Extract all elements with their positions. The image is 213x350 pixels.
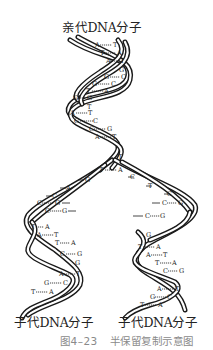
figure-caption: 图4–23半保留复制示意图 (60, 333, 194, 348)
svg-text:T: T (31, 288, 36, 296)
svg-text:C: C (167, 190, 172, 198)
svg-text:G: G (55, 199, 60, 207)
svg-text:C: C (63, 279, 68, 287)
svg-text:G: G (73, 94, 78, 102)
svg-text:T: T (76, 270, 81, 278)
svg-text:T: T (120, 57, 125, 65)
svg-text:T: T (140, 301, 145, 309)
svg-text:G: G (74, 117, 79, 125)
svg-text:A: A (157, 301, 163, 309)
svg-text:A: A (36, 231, 42, 239)
left-daughter-helix: CG CG TA AT TA CG G AT GC TA (22, 199, 82, 318)
svg-text:A: A (69, 109, 75, 117)
dna-helix-graphic: AT TA AT G GC GC TA GG T AT GC CG AT (0, 0, 213, 350)
svg-text:C: C (121, 73, 126, 81)
svg-text:G: G (160, 212, 165, 220)
svg-text:C: C (162, 199, 167, 207)
svg-text:A: A (145, 251, 151, 259)
svg-text:T: T (55, 239, 60, 247)
svg-text:A: A (70, 239, 76, 247)
svg-text:G: G (146, 231, 151, 239)
svg-text:G: G (178, 199, 183, 207)
svg-text:G: G (179, 267, 184, 275)
svg-text:A: A (65, 184, 71, 192)
svg-text:A: A (117, 166, 123, 174)
svg-text:T: T (118, 153, 123, 161)
svg-text:T: T (175, 285, 180, 293)
svg-text:G: G (75, 259, 80, 267)
svg-text:T: T (99, 166, 104, 174)
svg-text:A: A (171, 259, 177, 267)
svg-text:A: A (94, 133, 100, 141)
svg-text:C: C (130, 173, 135, 181)
svg-text:T: T (163, 251, 168, 259)
svg-text:T: T (138, 243, 143, 251)
svg-text:T: T (112, 133, 117, 141)
svg-text:C: C (111, 80, 116, 88)
svg-text:G: G (44, 279, 49, 287)
svg-text:T: T (100, 49, 105, 57)
svg-text:A: A (155, 243, 161, 251)
svg-text:G: G (87, 94, 92, 102)
svg-text:T: T (155, 259, 160, 267)
svg-text:A: A (94, 41, 100, 49)
svg-text:G: G (92, 80, 97, 88)
figure-number: 图4–23 (60, 335, 98, 347)
svg-text:A: A (58, 270, 64, 278)
svg-text:G: G (104, 73, 109, 81)
svg-text:T: T (31, 223, 36, 231)
svg-text:A: A (44, 223, 50, 231)
svg-text:A: A (105, 57, 111, 65)
right-daughter-dna-label: 子代DNA分子 (118, 312, 198, 331)
svg-text:A: A (116, 49, 122, 57)
svg-text:C: C (145, 212, 150, 220)
svg-text:C: C (60, 250, 65, 258)
left-daughter-dna-label: 子代DNA分子 (14, 312, 94, 331)
svg-text:C: C (167, 293, 172, 301)
dna-replication-diagram: AT TA AT G GC GC TA GG T AT GC CG AT (0, 0, 213, 350)
svg-text:A: A (48, 288, 54, 296)
svg-text:C: C (163, 267, 168, 275)
svg-text:C: C (45, 207, 50, 215)
svg-text:C: C (89, 125, 94, 133)
svg-text:C: C (37, 199, 42, 207)
svg-text:T: T (148, 182, 153, 190)
svg-text:G: G (150, 293, 155, 301)
svg-text:T: T (54, 231, 59, 239)
svg-text:T: T (88, 109, 93, 117)
svg-text:C: C (93, 117, 98, 125)
svg-text:G: G (85, 176, 90, 184)
svg-text:G: G (107, 125, 112, 133)
svg-text:T: T (113, 41, 118, 49)
svg-text:A: A (103, 87, 109, 95)
svg-text:G: G (62, 207, 67, 215)
svg-text:A: A (156, 285, 162, 293)
figure-title: 半保留复制示意图 (110, 335, 194, 347)
parent-dna-label: 亲代DNA分子 (62, 17, 142, 36)
svg-text:G: G (77, 250, 82, 258)
